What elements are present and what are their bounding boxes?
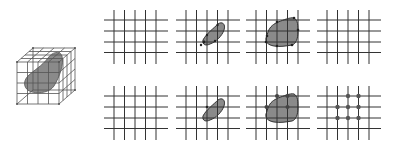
top-grid-1-empty bbox=[104, 10, 168, 64]
top-row bbox=[104, 10, 381, 64]
voxel-cube bbox=[16, 47, 76, 105]
bottom-grid-3-large-blob-points bbox=[246, 86, 310, 140]
bottom-grid-1-empty bbox=[104, 86, 168, 140]
top-grid-4-empty bbox=[317, 10, 381, 64]
bottom-row bbox=[104, 86, 381, 140]
bottom-grid-2-small-blob bbox=[176, 86, 240, 140]
bottom-grid-4-points-result bbox=[317, 86, 381, 140]
top-grid-2-small-blob bbox=[176, 10, 240, 64]
top-grid-3-large-blob bbox=[246, 10, 310, 64]
diagram-canvas bbox=[0, 0, 396, 146]
